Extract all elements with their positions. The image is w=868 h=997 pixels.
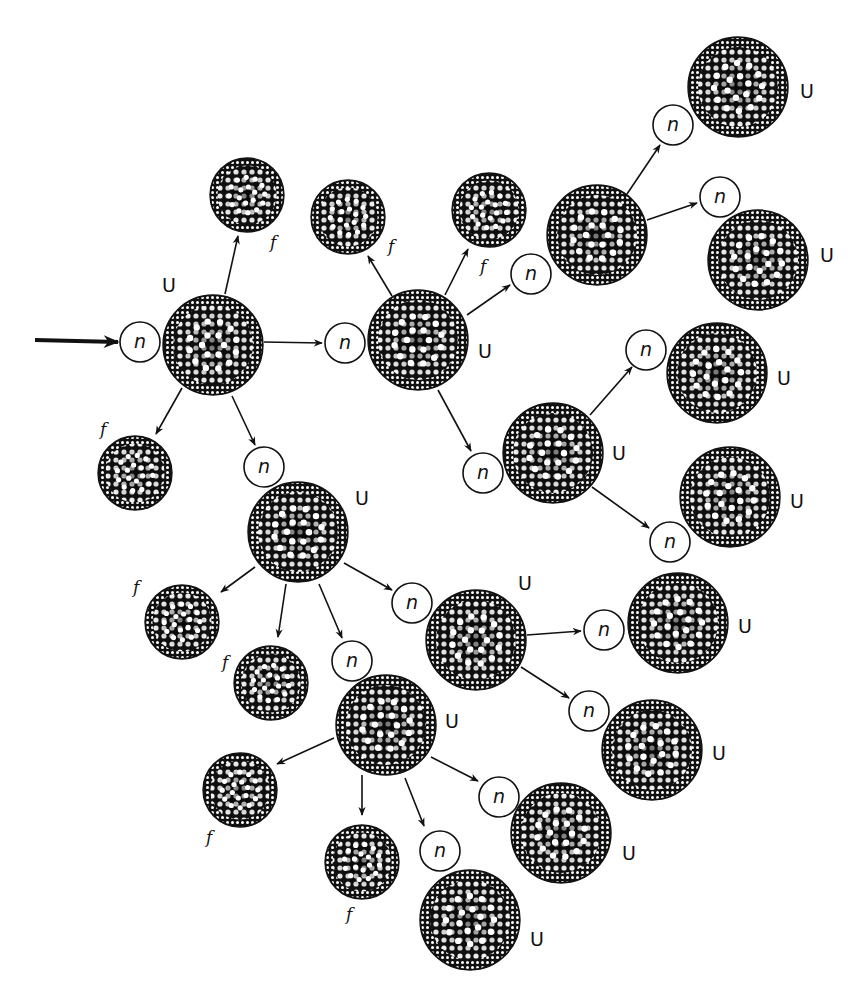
neutron-label: n <box>493 785 505 807</box>
neutron: n <box>463 453 503 493</box>
uranium-label: U <box>712 742 726 764</box>
neutron-label: n <box>640 338 652 360</box>
fragment-label: f <box>268 232 279 252</box>
reaction-arrow <box>467 285 510 315</box>
fragment-label: f <box>344 904 355 924</box>
reaction-arrow <box>521 667 569 698</box>
neutron-label: n <box>346 649 358 671</box>
neutron-label: n <box>598 618 610 640</box>
reaction-arrow <box>368 256 392 296</box>
fission-fragment <box>311 180 385 254</box>
uranium-label: U <box>162 274 176 296</box>
neutron-label: n <box>434 839 446 861</box>
fission-fragment <box>210 158 284 232</box>
neutron-label: n <box>525 262 537 284</box>
reaction-arrow <box>319 584 342 638</box>
uranium-nucleus <box>336 675 436 775</box>
fragment-label: f <box>98 419 109 439</box>
neutron-label: n <box>406 591 418 613</box>
fission-fragment <box>452 173 526 247</box>
uranium-nucleus <box>426 590 526 690</box>
uranium-nucleus <box>420 870 520 970</box>
fission-fragment <box>325 825 399 899</box>
neutron-label: n <box>664 530 676 552</box>
fission-chain-diagram: nnnnnnnnnnnnnnn UffUffUUUUUUffUUUUffUU <box>0 0 868 997</box>
reaction-arrow <box>156 388 182 434</box>
fragment-label: f <box>478 256 489 276</box>
neutron: n <box>392 583 432 623</box>
neutron: n <box>653 105 693 145</box>
reaction-arrow <box>278 584 286 637</box>
neutron: n <box>325 323 365 363</box>
neutron: n <box>244 447 284 487</box>
uranium-label: U <box>790 490 804 512</box>
neutron: n <box>332 641 372 681</box>
reaction-arrow <box>438 390 471 451</box>
uranium-nucleus <box>511 783 611 883</box>
neutron-label: n <box>339 331 351 353</box>
reaction-arrow <box>264 342 322 343</box>
reaction-arrow <box>445 249 468 295</box>
fission-fragment <box>98 436 172 510</box>
uranium-nucleus <box>163 295 263 395</box>
reaction-arrow <box>592 487 649 528</box>
reaction-arrow <box>405 778 424 826</box>
uranium-nucleus <box>688 37 788 137</box>
uranium-nucleus <box>248 482 348 582</box>
neutron: n <box>511 254 551 294</box>
neutron: n <box>420 831 460 871</box>
reaction-arrow <box>344 563 392 590</box>
neutron: n <box>479 777 519 817</box>
fragment-label: f <box>204 827 215 847</box>
uranium-label: U <box>445 710 459 732</box>
fragment-label: f <box>131 577 142 597</box>
uranium-label: U <box>355 487 369 509</box>
uranium-label: U <box>530 928 544 950</box>
reaction-arrow <box>431 757 478 781</box>
uranium-label: U <box>612 442 626 464</box>
uranium-label: U <box>777 367 791 389</box>
uranium-nucleus <box>628 573 728 673</box>
incoming-neutron-arrow <box>35 340 118 342</box>
uranium-label: U <box>738 615 752 637</box>
neutron-label: n <box>258 455 270 477</box>
reaction-arrow <box>590 367 632 415</box>
neutron: n <box>700 177 740 217</box>
uranium-nucleus <box>708 210 808 310</box>
uranium-nucleus <box>667 323 767 423</box>
neutron: n <box>120 322 160 362</box>
uranium-label: U <box>800 80 814 102</box>
neutron: n <box>569 691 609 731</box>
uranium-label: U <box>622 842 636 864</box>
neutron-label: n <box>667 113 679 135</box>
reaction-arrow <box>527 631 581 635</box>
neutron: n <box>650 522 690 562</box>
reaction-arrow <box>221 567 255 592</box>
fragment-label: f <box>386 236 397 256</box>
uranium-nucleus <box>680 447 780 547</box>
neutron-label: n <box>477 461 489 483</box>
uranium-nucleus <box>368 290 468 390</box>
neutron-label: n <box>134 330 146 352</box>
neutron: n <box>626 330 666 370</box>
uranium-nucleus <box>602 700 702 800</box>
fission-fragment <box>203 753 277 827</box>
nuclei-group <box>98 37 808 970</box>
uranium-label: U <box>820 244 834 266</box>
neutron-label: n <box>583 699 595 721</box>
neutron: n <box>584 610 624 650</box>
reaction-arrow <box>232 396 255 445</box>
reaction-arrow <box>225 236 238 294</box>
uranium-nucleus <box>547 185 647 285</box>
uranium-nucleus <box>503 403 603 503</box>
fission-fragment <box>145 585 219 659</box>
fragment-label: f <box>220 652 231 672</box>
reaction-arrow <box>627 145 660 194</box>
reaction-arrow <box>647 203 697 220</box>
fission-fragment <box>234 646 308 720</box>
neutron-label: n <box>714 185 726 207</box>
uranium-label: U <box>518 572 532 594</box>
reaction-arrow <box>277 738 334 764</box>
uranium-label: U <box>478 340 492 362</box>
